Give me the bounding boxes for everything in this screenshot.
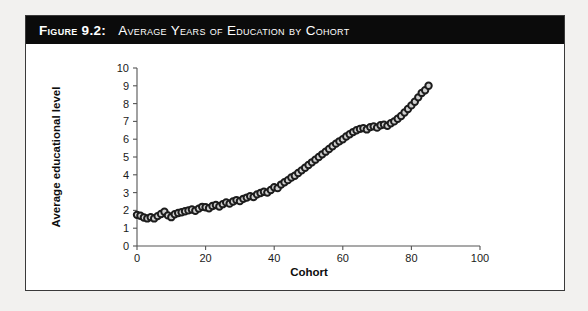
data-point-group	[134, 83, 432, 222]
y-tick-label: 2	[123, 204, 129, 216]
y-tick-label: 6	[123, 133, 129, 145]
y-tick-label: 9	[123, 80, 129, 92]
x-tick-label: 80	[405, 252, 417, 264]
y-tick-label: 1	[123, 222, 129, 234]
y-tick-label: 10	[117, 62, 129, 74]
y-axis-title: Average educational level	[50, 87, 62, 228]
x-tick-label: 0	[134, 252, 140, 264]
figure-title: Figure 9.2: Average Years of Education b…	[26, 23, 350, 38]
y-tick-label: 0	[123, 240, 129, 252]
figure-number: Figure 9.2:	[39, 23, 106, 38]
y-tick-label: 5	[123, 151, 129, 163]
chart-plot-area: 012345678910 020406080100 Average educat…	[26, 44, 564, 290]
x-axis-title: Cohort	[290, 266, 328, 278]
x-tick-label: 40	[268, 252, 280, 264]
data-point	[425, 83, 431, 89]
y-tick-label: 3	[123, 187, 129, 199]
x-tick-label: 60	[337, 252, 349, 264]
y-tick-label: 4	[123, 169, 129, 181]
scatter-chart: 012345678910 020406080100 Average educat…	[26, 44, 563, 290]
x-tick-label: 100	[471, 252, 489, 264]
y-tick-label: 7	[123, 115, 129, 127]
figure-title-label: Average Years of Education by Cohort	[118, 23, 349, 38]
x-tick-label: 20	[199, 252, 211, 264]
figure-container: Figure 9.2: Average Years of Education b…	[25, 15, 565, 291]
figure-title-banner: Figure 9.2: Average Years of Education b…	[26, 16, 564, 44]
y-axis-ticks: 012345678910	[117, 62, 137, 252]
y-tick-label: 8	[123, 98, 129, 110]
x-axis-ticks: 020406080100	[134, 246, 489, 264]
